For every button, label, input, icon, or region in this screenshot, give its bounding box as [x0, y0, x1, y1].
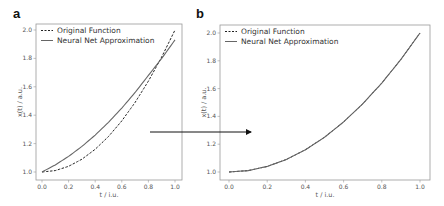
x-tick-label: 0.8 — [144, 183, 154, 190]
series-original-function — [229, 33, 420, 172]
panel-b: b0.00.20.40.60.81.01.01.21.41.61.82.0t /… — [196, 6, 430, 199]
x-tick-label: 0.0 — [224, 183, 234, 190]
x-tick-label: 0.2 — [262, 183, 272, 190]
legend-entry: Neural Net Approximation — [241, 37, 339, 46]
plot-frame — [220, 25, 430, 180]
series-neural-net — [229, 33, 420, 172]
plot-frame — [36, 24, 182, 180]
x-tick-label: 1.0 — [170, 183, 180, 190]
y-tick-label: 1.2 — [206, 140, 216, 147]
x-tick-label: 1.0 — [415, 183, 425, 190]
x-axis-label: t / i.u. — [100, 191, 119, 199]
legend: Original FunctionNeural Net Approximatio… — [225, 27, 339, 46]
x-tick-label: 0.6 — [339, 183, 349, 190]
y-tick-label: 2.0 — [22, 26, 32, 33]
panel-label: a — [13, 6, 21, 21]
x-tick-label: 0.0 — [37, 183, 47, 190]
series-original-function — [42, 30, 175, 172]
panel-a: a0.00.20.40.60.81.01.01.21.41.61.82.0t /… — [13, 6, 182, 199]
x-axis-label: t / i.u. — [316, 191, 335, 199]
y-tick-label: 1.0 — [22, 168, 32, 175]
panel-label: b — [196, 6, 204, 21]
y-axis-label: x(t) / a.u. — [200, 87, 208, 117]
y-tick-label: 1.2 — [22, 140, 32, 147]
legend-entry: Original Function — [241, 27, 305, 36]
legend-entry: Original Function — [57, 26, 121, 35]
x-tick-label: 0.4 — [301, 183, 311, 190]
series-neural-net — [42, 40, 175, 172]
y-tick-label: 1.8 — [206, 57, 216, 64]
x-tick-label: 0.4 — [90, 183, 100, 190]
x-tick-label: 0.2 — [64, 183, 74, 190]
y-tick-label: 1.0 — [206, 168, 216, 175]
y-axis-label: x(t) / a.u. — [16, 87, 24, 117]
y-tick-label: 2.0 — [206, 29, 216, 36]
x-tick-label: 0.6 — [117, 183, 127, 190]
legend-entry: Neural Net Approximation — [57, 36, 155, 45]
figure: a0.00.20.40.60.81.01.01.21.41.61.82.0t /… — [0, 0, 444, 206]
legend: Original FunctionNeural Net Approximatio… — [41, 26, 155, 45]
x-tick-label: 0.8 — [377, 183, 387, 190]
y-tick-label: 1.8 — [22, 54, 32, 61]
